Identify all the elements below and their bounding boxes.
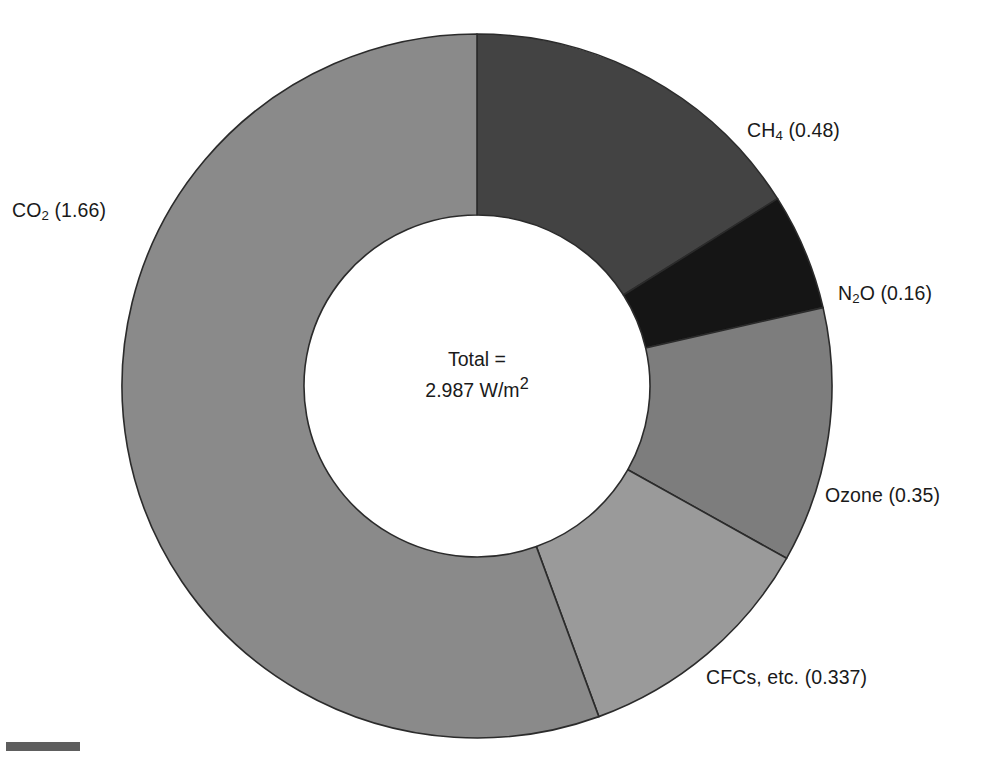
slice-label-cfcs-prefix: CFCs, etc. (706, 666, 799, 688)
slice-label-n2o-subscript: 2 (852, 291, 859, 306)
page-corner-mark (6, 742, 80, 751)
slice-label-ch4-subscript: 4 (775, 128, 782, 143)
slice-label-n2o: N2O (0.16) (838, 281, 932, 305)
slice-label-cfcs: CFCs, etc. (0.337) (706, 665, 867, 689)
slice-value-ozone: (0.35) (888, 484, 940, 506)
slice-value-cfcs: (0.337) (805, 666, 868, 688)
slice-label-ozone: Ozone (0.35) (825, 483, 940, 507)
slice-label-co2-prefix: CO (12, 199, 41, 221)
slice-label-ozone-prefix: Ozone (825, 484, 883, 506)
total-label-line: Total = (377, 347, 577, 373)
slice-label-ch4-prefix: CH (747, 119, 775, 141)
donut-chart: CO2 (1.66) CH4 (0.48) N2O (0.16) Ozone (… (0, 0, 981, 758)
center-total-annotation: Total = 2.987 W/m2 (377, 347, 577, 403)
slice-label-co2-subscript: 2 (41, 208, 48, 223)
total-value-text: 2.987 W/m (425, 378, 519, 400)
slice-label-co2: CO2 (1.66) (12, 198, 106, 222)
slice-value-co2: (1.66) (54, 199, 106, 221)
slice-label-n2o-suffix: O (860, 282, 875, 304)
total-value-line: 2.987 W/m2 (377, 373, 577, 403)
slice-label-n2o-prefix: N (838, 282, 852, 304)
slice-label-ch4: CH4 (0.48) (747, 118, 840, 142)
slice-value-n2o: (0.16) (880, 282, 932, 304)
total-value-superscript: 2 (520, 374, 529, 392)
slice-value-ch4: (0.48) (788, 119, 840, 141)
